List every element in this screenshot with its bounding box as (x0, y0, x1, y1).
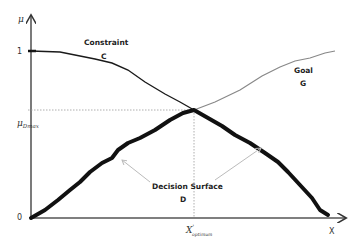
goal-letter: G (300, 79, 306, 88)
constraint-title: Constraint (84, 38, 129, 47)
y-tick-label-one: 1 (17, 47, 22, 56)
y-axis-label: μ (18, 14, 24, 24)
y-tick-label-zero: 0 (17, 213, 22, 222)
goal-title: Goal (294, 66, 313, 75)
x-axis-label: X (329, 227, 335, 236)
x-tick-label-optimum: X'optimum (185, 223, 212, 237)
y-tick-label-mu-dmax: μDmax (17, 118, 40, 129)
decision-title: Decision Surface (152, 182, 223, 191)
decision-pointer-right (215, 148, 261, 180)
constraint-curve (31, 51, 205, 117)
goal-curve (194, 51, 335, 110)
fuzzy-decision-diagram: μ 1 μDmax 0 X'optimum X Constraint C Goa… (0, 0, 362, 249)
decision-letter: D (180, 195, 186, 204)
decision-pointer-left (122, 160, 150, 182)
constraint-letter: C (101, 52, 107, 61)
